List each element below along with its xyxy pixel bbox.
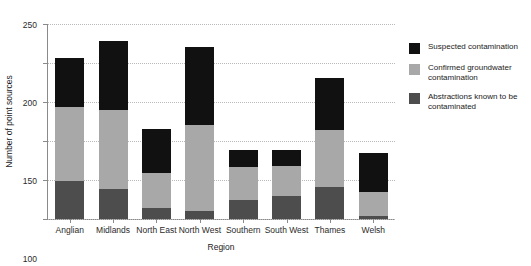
y-axis-tick: 150	[43, 102, 47, 103]
x-tick-label: Thames	[315, 225, 346, 235]
bar-segment[interactable]	[99, 41, 128, 110]
legend-item[interactable]: Confirmed groundwater contamination	[409, 63, 527, 83]
bar-segment[interactable]	[142, 208, 171, 219]
stacked-bar[interactable]	[315, 78, 344, 219]
x-tick-label: North West	[179, 225, 221, 235]
y-axis-tick: 250	[43, 24, 47, 25]
bar-segment[interactable]	[272, 150, 301, 166]
bar-segment[interactable]	[272, 196, 301, 219]
y-tick-label: 200	[23, 98, 37, 108]
legend-item-label: Suspected contamination	[428, 42, 518, 52]
bar-segment[interactable]	[185, 125, 214, 212]
stacked-bar[interactable]	[185, 47, 214, 219]
x-tick-label: Anglian	[56, 225, 84, 235]
stacked-bar[interactable]	[272, 150, 301, 219]
plot-area: 050100150200250 AnglianMidlandsNorth Eas…	[47, 24, 395, 219]
bar-segment[interactable]	[229, 167, 258, 201]
x-axis-tick	[70, 219, 71, 223]
x-tick-label: North East	[136, 225, 176, 235]
legend-swatch-abstractions	[409, 93, 420, 104]
bar-segment[interactable]	[55, 107, 84, 181]
bar-segment[interactable]	[272, 166, 301, 196]
stacked-bar[interactable]	[99, 41, 128, 219]
bar-segment[interactable]	[185, 47, 214, 124]
legend-item-label: Abstractions known to be contaminated	[428, 92, 527, 112]
y-tick-label: 150	[23, 176, 37, 186]
y-axis-tick: 200	[43, 63, 47, 64]
bar-group[interactable]	[308, 24, 351, 219]
bar-segment[interactable]	[142, 129, 171, 173]
bar-segment[interactable]	[99, 110, 128, 189]
legend-swatch-suspected	[409, 43, 420, 54]
bar-group[interactable]	[352, 24, 395, 219]
y-axis-tick: 0	[43, 219, 47, 220]
x-tick-label: South West	[265, 225, 309, 235]
x-tick-label: Welsh	[362, 225, 385, 235]
bar-group[interactable]	[265, 24, 308, 219]
y-axis-tick: 100	[43, 141, 47, 142]
bar-segment[interactable]	[229, 200, 258, 219]
bar-segment[interactable]	[359, 192, 388, 216]
bars-group	[48, 24, 395, 219]
x-axis-tick	[373, 219, 374, 223]
bar-segment[interactable]	[315, 78, 344, 130]
chart-root: Number of point sources 050100150200250 …	[0, 0, 531, 266]
bar-group[interactable]	[91, 24, 134, 219]
bar-segment[interactable]	[99, 189, 128, 219]
bar-segment[interactable]	[185, 211, 214, 219]
x-tick-label: Midlands	[96, 225, 130, 235]
x-axis-tick	[287, 219, 288, 223]
stacked-bar[interactable]	[142, 129, 171, 219]
bar-segment[interactable]	[55, 181, 84, 219]
stacked-bar[interactable]	[55, 58, 84, 219]
x-axis-tick	[330, 219, 331, 223]
bar-group[interactable]	[48, 24, 91, 219]
bar-group[interactable]	[222, 24, 265, 219]
legend-item[interactable]: Suspected contamination	[409, 42, 527, 54]
bar-segment[interactable]	[142, 173, 171, 208]
legend-swatch-confirmed	[409, 64, 420, 75]
bar-group[interactable]	[135, 24, 178, 219]
legend-item-label: Confirmed groundwater contamination	[428, 63, 527, 83]
bar-segment[interactable]	[55, 58, 84, 106]
x-axis-tick	[200, 219, 201, 223]
y-tick-label: 100	[23, 254, 37, 264]
gridline	[48, 219, 395, 220]
bar-segment[interactable]	[229, 150, 258, 166]
bar-segment[interactable]	[315, 187, 344, 219]
stacked-bar[interactable]	[359, 153, 388, 219]
stacked-bar[interactable]	[229, 150, 258, 219]
x-axis-tick	[243, 219, 244, 223]
bar-group[interactable]	[178, 24, 221, 219]
x-axis-title: Region	[47, 242, 395, 252]
legend-item[interactable]: Abstractions known to be contaminated	[409, 92, 527, 112]
y-axis-tick: 50	[43, 180, 47, 181]
y-axis-title: Number of point sources	[4, 24, 16, 219]
x-axis-tick	[113, 219, 114, 223]
x-axis-tick	[156, 219, 157, 223]
y-tick-label: 250	[23, 20, 37, 30]
chart-legend: Suspected contaminationConfirmed groundw…	[409, 42, 527, 121]
x-tick-label: Southern	[226, 225, 261, 235]
bar-segment[interactable]	[315, 130, 344, 187]
bar-segment[interactable]	[359, 153, 388, 192]
